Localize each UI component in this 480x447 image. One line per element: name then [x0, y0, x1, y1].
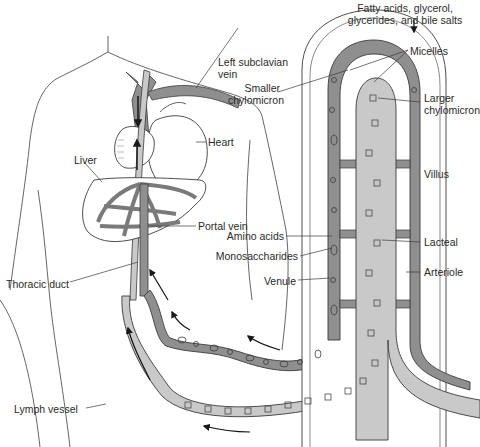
label-monosaccharides: Monosaccharides	[200, 250, 298, 262]
label-larger-chylomicron-line1: Larger	[424, 92, 480, 104]
label-lymph-vessel: Lymph vessel	[14, 403, 78, 415]
absorption-diagram: Fatty acids, glycerol, glycerides, and b…	[0, 0, 480, 447]
label-larger-chylomicron: Larger chylomicron	[424, 92, 480, 116]
label-villus: Villus	[424, 168, 449, 180]
label-smaller-chylomicron-line1: Smaller	[228, 82, 280, 94]
label-lacteal: Lacteal	[424, 236, 458, 248]
label-left-subclavian-line2: vein	[218, 68, 288, 80]
label-smaller-chylomicron: Smaller chylomicron	[228, 82, 280, 106]
label-fatty-acids-line2: glycerides, and bile salts	[330, 14, 480, 26]
label-liver: Liver	[74, 154, 97, 166]
label-fatty-acids: Fatty acids, glycerol, glycerides, and b…	[330, 2, 480, 26]
label-fatty-acids-line1: Fatty acids, glycerol,	[330, 2, 480, 14]
label-arteriole: Arteriole	[424, 266, 463, 278]
label-amino-acids: Amino acids	[200, 230, 284, 242]
portal-vein	[140, 184, 148, 296]
label-micelles: Micelles	[410, 45, 448, 57]
label-larger-chylomicron-line2: chylomicron	[424, 104, 480, 116]
label-heart: Heart	[208, 136, 234, 148]
label-smaller-chylomicron-line2: chylomicron	[228, 94, 280, 106]
label-left-subclavian-vein: Left subclavian vein	[218, 56, 288, 80]
label-thoracic-duct: Thoracic duct	[6, 278, 69, 290]
villus	[302, 10, 480, 447]
heart	[115, 102, 208, 190]
label-venule: Venule	[240, 275, 296, 287]
label-left-subclavian-line1: Left subclavian	[218, 56, 288, 68]
